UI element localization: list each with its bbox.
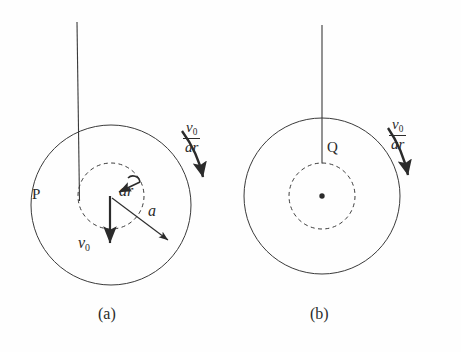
panel-a-point-label: P — [32, 187, 40, 202]
panel-a-vector-v0-label: v0 — [78, 235, 90, 253]
panel-a-vector-ar-label: ar — [119, 183, 133, 199]
panel-b-rotation-numerator: v0 — [389, 117, 406, 135]
panel-b-caption: (b) — [310, 305, 329, 323]
panel-a-rotation-denominator: ar — [183, 139, 200, 156]
panel-a-rotation-numerator: v0 — [183, 120, 200, 138]
physics-figure: P ar a v0 v0 ar Q v0 ar (a) (b) — [0, 0, 461, 352]
panel-a-caption: (a) — [98, 305, 116, 323]
panel-b-point-label: Q — [327, 140, 338, 155]
panel-a-v0-subscript: 0 — [85, 242, 90, 253]
figure-canvas — [0, 0, 461, 352]
panel-b-center-dot — [319, 193, 324, 198]
panel-a-graphics — [31, 22, 203, 285]
panel-a-string — [77, 22, 80, 201]
panel-b-rotation-denominator: ar — [389, 136, 406, 153]
panel-a-vector-a-label: a — [148, 203, 156, 219]
panel-b-rotation-label: v0 ar — [389, 117, 406, 153]
panel-a-vector-a — [112, 198, 168, 240]
panel-a-rotation-label: v0 ar — [183, 120, 200, 156]
panel-b-graphics — [244, 25, 408, 274]
